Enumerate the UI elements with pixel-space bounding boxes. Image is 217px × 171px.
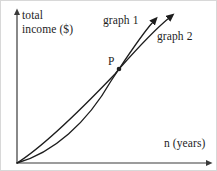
y-axis-label-line-2: income ($) [22,23,73,35]
x-axis-label: n (years) [164,137,205,149]
graph-2-label: graph 2 [157,30,193,42]
point-p-marker [117,67,122,72]
y-axis-label: total income ($) [22,9,73,35]
curve-graph-1 [17,22,153,163]
point-p-label: P [108,55,115,67]
y-axis-label-line-1: total [22,9,43,21]
graph-1-label: graph 1 [103,14,139,26]
graph-figure: total income ($) n (years) graph 1 graph… [0,0,217,171]
curve-graph-2 [17,18,169,163]
